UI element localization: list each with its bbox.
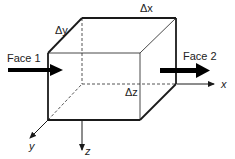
delta-z-label: Δz: [125, 86, 138, 98]
delta-x-label: Δx: [140, 2, 153, 14]
axes: [30, 84, 214, 150]
face2-arrow-icon: [160, 63, 210, 78]
y-axis: [30, 120, 48, 138]
face2-label: Face 2: [183, 50, 217, 62]
x-axis-label: x: [220, 78, 227, 90]
cube-diagram: Δy Δx Δz Face 1 Face 2 x y z: [0, 0, 235, 159]
face1-arrow-icon: [8, 64, 63, 76]
flux-arrows: [8, 63, 210, 78]
z-axis-label: z: [84, 145, 91, 157]
delta-y-label: Δy: [55, 24, 68, 36]
y-axis-label: y: [28, 140, 36, 152]
face1-label: Face 1: [7, 52, 41, 64]
